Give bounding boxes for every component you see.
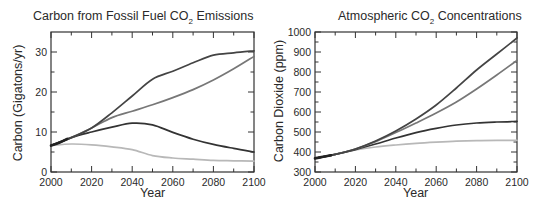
y-tick-label: 30 — [35, 46, 47, 58]
x-axis-label: Year — [403, 186, 428, 200]
y-axis-label: Carbon Dioxide (ppm) — [272, 36, 286, 166]
series-line — [51, 123, 254, 152]
x-tick-label: 2020 — [344, 176, 368, 188]
x-tick-label: 2080 — [202, 176, 226, 188]
y-tick-label: 20 — [35, 86, 47, 98]
y-tick-label: 1000 — [288, 26, 312, 38]
y-axis-label: Carbon (Gigatons/yr) — [11, 38, 25, 168]
x-tick-label: 2100 — [505, 176, 529, 188]
y-tick-label: 10 — [35, 126, 47, 138]
emissions-plot-area: 2000202020402060208021000102030 — [0, 0, 271, 205]
series-line — [315, 140, 517, 158]
series-line — [315, 155, 331, 158]
series-line — [51, 56, 254, 145]
x-tick-label: 2080 — [465, 176, 489, 188]
y-tick-label: 500 — [293, 126, 311, 138]
concentration-plot-area: 2000202020402060208021003004005006007008… — [271, 0, 542, 205]
y-tick-label: 700 — [293, 86, 311, 98]
plot-frame — [315, 32, 517, 172]
y-tick-label: 800 — [293, 66, 311, 78]
emissions-chart-panel: Carbon from Fossil Fuel CO2 Emissions 20… — [0, 0, 271, 205]
y-tick-label: 900 — [293, 46, 311, 58]
concentration-chart-panel: Atmospheric CO2 Concentrations 200020202… — [271, 0, 542, 205]
y-tick-label: 600 — [293, 106, 311, 118]
y-tick-label: 0 — [41, 166, 47, 178]
y-tick-label: 300 — [293, 166, 311, 178]
series-line — [51, 51, 254, 146]
x-tick-label: 2020 — [80, 176, 104, 188]
y-tick-label: 400 — [293, 146, 311, 158]
x-axis-label: Year — [140, 186, 165, 200]
x-tick-label: 2100 — [242, 176, 266, 188]
